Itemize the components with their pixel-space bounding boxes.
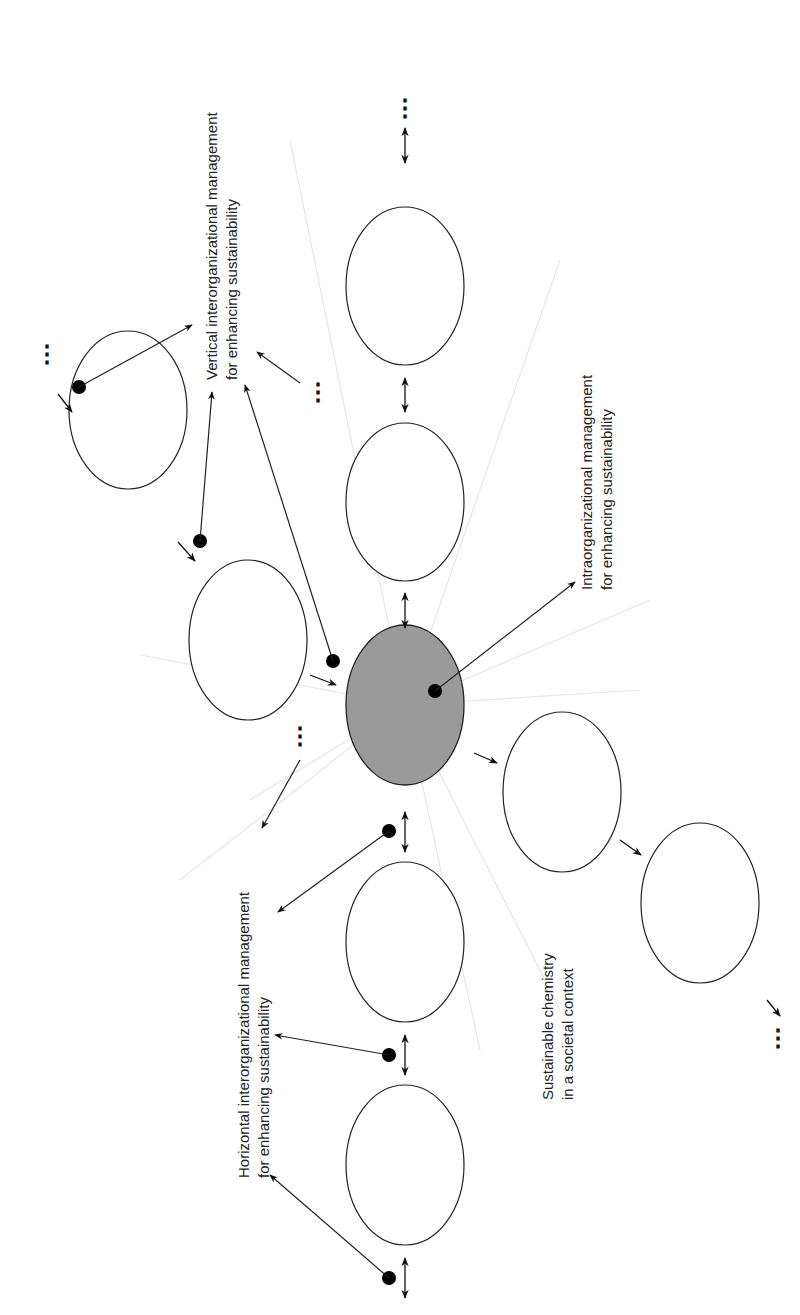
ellipsis-top: ⋮	[393, 94, 417, 121]
partner-node-bottom-1	[346, 862, 464, 1022]
label-societal: Sustainable chemistry in a societal cont…	[539, 953, 576, 1100]
central-company-node	[346, 625, 464, 785]
partner-node-top-2	[346, 207, 464, 365]
supplier-node-1	[189, 560, 307, 720]
partner-node-bottom-2	[346, 1085, 464, 1245]
customer-node-2	[641, 823, 759, 983]
label-intra: Intraorganizational management for enhan…	[578, 374, 615, 590]
ellipsis-horizontal: ⋮	[288, 722, 312, 749]
ellipsis-vertical: ⋮	[306, 378, 330, 405]
svg-text:Sustainable chemistry: Sustainable chemistry	[539, 953, 556, 1100]
customer-node-1	[503, 712, 621, 872]
svg-text:for enhancing sustainability: for enhancing sustainability	[598, 409, 615, 590]
label-horizontal: Horizontal interorganizational managemen…	[235, 891, 272, 1178]
svg-text:Intraorganizational management: Intraorganizational management	[578, 374, 595, 590]
intra-arrow	[435, 582, 575, 691]
partner-node-top-1	[346, 423, 464, 581]
svg-text:for enhancing sustainability: for enhancing sustainability	[223, 199, 240, 380]
svg-text:in a societal context: in a societal context	[559, 967, 576, 1100]
supplier-node-2	[69, 331, 187, 489]
ellipsis-downstream: ⋮	[766, 1024, 790, 1051]
svg-text:for enhancing sustainability: for enhancing sustainability	[255, 997, 272, 1178]
ellipsis-upstream: ⋮	[35, 340, 59, 367]
upstream-chain	[69, 331, 307, 720]
svg-text:Horizontal interorganizational: Horizontal interorganizational managemen…	[235, 891, 252, 1178]
svg-text:Vertical interorganizational m: Vertical interorganizational management	[203, 112, 220, 380]
label-vertical: Vertical interorganizational management …	[203, 112, 240, 380]
sustainability-network-diagram: ⋮ ⋮ ⋮ ⋮	[0, 0, 800, 1315]
